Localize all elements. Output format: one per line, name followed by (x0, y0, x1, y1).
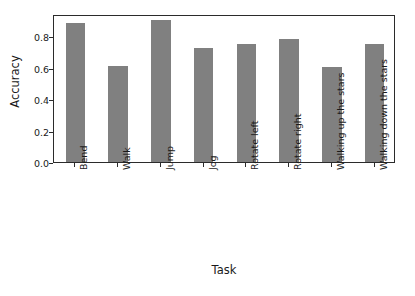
bar-chart-figure: Accuracy 0.00.20.40.60.8 BendWalkJumpJog… (0, 0, 415, 296)
y-tick-mark (49, 100, 53, 101)
x-tick-label: Rotate right (292, 114, 303, 170)
y-tick-label: 0.4 (7, 95, 49, 106)
x-axis-tick-labels: BendWalkJumpJogRotate leftRotate rightWa… (53, 170, 395, 260)
y-tick-label: 0.8 (7, 32, 49, 43)
y-tick-mark (49, 37, 53, 38)
x-tick-mark (331, 163, 332, 167)
y-tick-mark (49, 132, 53, 133)
x-tick-mark (288, 163, 289, 167)
x-tick-mark (74, 163, 75, 167)
y-tick-mark (49, 69, 53, 70)
x-tick-label: Walking down the stars (378, 59, 389, 170)
y-tick-label: 0.0 (7, 158, 49, 169)
x-tick-label: Jog (207, 155, 218, 170)
x-tick-label: Jump (164, 146, 175, 170)
x-tick-mark (117, 163, 118, 167)
x-tick-mark (374, 163, 375, 167)
x-tick-label: Walking up the stars (335, 73, 346, 171)
y-tick-label: 0.2 (7, 126, 49, 137)
x-tick-mark (160, 163, 161, 167)
y-tick-label: 0.6 (7, 63, 49, 74)
x-tick-label: Rotate left (249, 120, 260, 170)
x-tick-label: Bend (78, 146, 89, 170)
x-tick-label: Walk (121, 147, 132, 170)
y-axis-tick-labels: 0.00.20.40.60.8 (0, 15, 49, 163)
x-tick-mark (203, 163, 204, 167)
x-axis-title: Task (53, 263, 395, 277)
x-tick-mark (245, 163, 246, 167)
